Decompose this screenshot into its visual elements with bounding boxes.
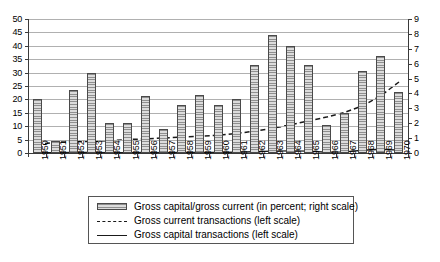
y-axis-right-tick — [409, 93, 412, 94]
y-axis-left-tick — [25, 86, 28, 87]
gridline — [28, 86, 408, 87]
x-axis-tick-label: 1954 — [113, 140, 122, 160]
y-axis-left-tick-label: 50 — [0, 15, 22, 24]
legend-item-gross-capital-transactions: Gross capital transactions (left scale) — [89, 228, 353, 242]
x-axis-tick — [64, 154, 65, 157]
x-axis-tick-label: 1951 — [59, 140, 68, 160]
x-axis-tick-label: 1950 — [41, 140, 50, 160]
y-axis-left-tick — [25, 32, 28, 33]
y-axis-left-tick — [25, 46, 28, 47]
gridline — [28, 73, 408, 74]
y-axis-right-tick-label: 5 — [414, 75, 434, 84]
x-axis-tick-label: 1957 — [168, 140, 177, 160]
y-axis-right-tick — [409, 108, 412, 109]
x-axis-tick-label: 1964 — [294, 140, 303, 160]
x-axis-tick — [82, 154, 83, 157]
y-axis-left-tick — [25, 113, 28, 114]
x-axis-tick-label: 1969 — [385, 140, 394, 160]
x-axis-tick-label: 1959 — [204, 140, 213, 160]
x-axis-tick-label: 1966 — [331, 140, 340, 160]
gridline — [28, 32, 408, 33]
y-axis-left-tick — [25, 126, 28, 127]
legend-item-gross-capital-ratio: Gross capital/gross current (in percent;… — [89, 200, 353, 214]
x-axis-tick — [299, 154, 300, 157]
x-axis-tick-label: 1968 — [367, 140, 376, 160]
y-axis-right-tick-label: 6 — [414, 60, 434, 69]
y-axis-left-tick — [25, 19, 28, 20]
y-axis-right-line — [408, 19, 409, 154]
y-axis-left-tick-label: 40 — [0, 42, 22, 51]
y-axis-left-tick — [25, 140, 28, 141]
gridline — [28, 59, 408, 60]
y-axis-left-tick-label: 0 — [0, 149, 22, 158]
x-axis-tick-label: 1952 — [77, 140, 86, 160]
y-axis-right-tick-label: 4 — [414, 89, 434, 98]
y-axis-right-tick-label: 0 — [414, 149, 434, 158]
x-axis-tick-label: 1962 — [258, 140, 267, 160]
x-axis-tick — [354, 154, 355, 157]
y-axis-left-tick-label: 35 — [0, 55, 22, 64]
x-axis-tick — [281, 154, 282, 157]
y-axis-right-tick — [409, 138, 412, 139]
x-axis-tick-label: 1961 — [240, 140, 249, 160]
y-axis-left-tick-label: 25 — [0, 82, 22, 91]
x-axis-tick — [191, 154, 192, 157]
y-axis-right-tick — [409, 79, 412, 80]
y-axis-right-tick — [409, 123, 412, 124]
legend-label: Gross capital transactions (left scale) — [134, 229, 298, 241]
y-axis-left-tick — [25, 59, 28, 60]
bar — [376, 56, 385, 153]
x-axis-tick-label: 1956 — [150, 140, 159, 160]
x-axis-tick — [100, 154, 101, 157]
y-axis-left-tick — [25, 99, 28, 100]
bar — [286, 46, 295, 153]
legend-item-gross-current-transactions: Gross current transactions (left scale) — [89, 214, 353, 228]
y-axis-left-tick-label: 45 — [0, 28, 22, 37]
legend-label: Gross capital/gross current (in percent;… — [134, 201, 358, 213]
x-axis-tick-label: 1953 — [95, 140, 104, 160]
y-axis-right-tick — [409, 34, 412, 35]
x-axis-tick — [46, 154, 47, 157]
x-axis-tick — [263, 154, 264, 157]
bar — [268, 35, 277, 153]
y-axis-left-tick-label: 10 — [0, 122, 22, 131]
y-axis-right-tick-label: 1 — [414, 134, 434, 143]
x-axis-tick — [118, 154, 119, 157]
y-axis-right-tick-label: 7 — [414, 45, 434, 54]
plot-area: 0510152025303540455001234567891950195119… — [0, 0, 440, 186]
x-axis-tick — [137, 154, 138, 157]
y-axis-right-tick-label: 3 — [414, 104, 434, 113]
y-axis-right-tick-label: 2 — [414, 119, 434, 128]
x-axis-tick — [408, 154, 409, 157]
x-axis-tick — [336, 154, 337, 157]
solid-line-icon — [97, 229, 127, 241]
y-axis-left-line — [28, 19, 29, 154]
y-axis-right-tick-label: 8 — [414, 30, 434, 39]
x-axis-tick — [227, 154, 228, 157]
x-axis-tick — [209, 154, 210, 157]
y-axis-left-tick-label: 15 — [0, 109, 22, 118]
chart-figure: 0510152025303540455001234567891950195119… — [0, 0, 440, 262]
gridline — [28, 46, 408, 47]
x-axis-tick — [155, 154, 156, 157]
x-axis-tick-label: 1963 — [276, 140, 285, 160]
bar-swatch-icon — [97, 201, 127, 213]
x-axis-tick — [372, 154, 373, 157]
gridline — [28, 99, 408, 100]
x-axis-tick — [318, 154, 319, 157]
y-axis-left-tick-label: 20 — [0, 95, 22, 104]
x-axis-tick — [390, 154, 391, 157]
gridline — [28, 19, 408, 20]
y-axis-right-tick — [409, 19, 412, 20]
dashed-line-icon — [97, 215, 127, 227]
x-axis-tick-label: 1960 — [222, 140, 231, 160]
x-axis-tick — [28, 154, 29, 157]
chart-legend: Gross capital/gross current (in percent;… — [88, 196, 354, 244]
x-axis-tick-label: 1958 — [186, 140, 195, 160]
y-axis-right-tick — [409, 49, 412, 50]
legend-label: Gross current transactions (left scale) — [134, 215, 300, 227]
y-axis-right-tick — [409, 64, 412, 65]
x-axis-tick — [173, 154, 174, 157]
y-axis-left-tick — [25, 73, 28, 74]
x-axis-tick-label: 1965 — [312, 140, 321, 160]
